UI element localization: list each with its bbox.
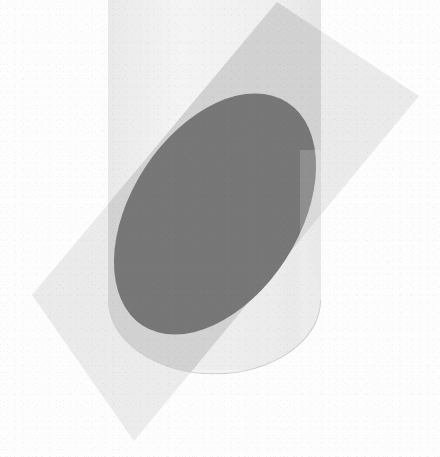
figure-canvas: Cylinder cut by an oblique plane A verti…	[0, 0, 440, 457]
cylinder-plane-intersection-figure	[0, 0, 440, 457]
